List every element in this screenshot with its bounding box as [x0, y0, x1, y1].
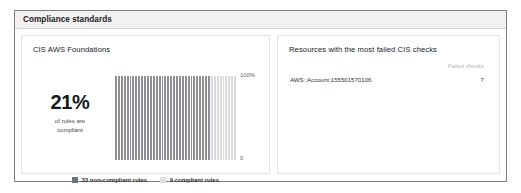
compliance-percent-caption: of rules arecompliant	[28, 117, 112, 135]
panel-title-left: CIS AWS Foundations	[22, 36, 269, 54]
failed-checks-table-header: Failed checks	[278, 54, 499, 69]
column-header-failed-checks: Failed checks	[448, 63, 484, 69]
panel-title-right: Resources with the most failed CIS check…	[278, 36, 499, 54]
legend-item-compliant[interactable]: 9 compliant rules	[160, 177, 219, 183]
cell-resource-name: AWS::Account:155501570106	[290, 76, 481, 83]
widget-body: CIS AWS Foundations 21% of rules arecomp…	[15, 29, 506, 180]
bar-series-container	[114, 76, 236, 160]
axis-label-max: 100%	[240, 72, 255, 78]
compliance-standards-widget: Compliance standards CIS AWS Foundations…	[14, 10, 507, 182]
legend-item-noncompliant[interactable]: 33 non-compliant rules	[72, 177, 147, 183]
legend-swatch-icon	[72, 177, 78, 183]
compliance-percent-value: 21%	[28, 92, 112, 112]
axis-label-min: 0	[240, 155, 243, 161]
widget-header: Compliance standards	[15, 11, 506, 29]
cell-failed-checks-count: 7	[481, 76, 484, 83]
compliance-bar-chart	[114, 76, 236, 160]
compliance-chart-area: 21% of rules arecompliant 100% 0	[22, 54, 269, 172]
bar-compliant	[233, 76, 236, 160]
failed-checks-panel: Resources with the most failed CIS check…	[277, 35, 500, 174]
legend-swatch-icon	[160, 177, 166, 183]
compliance-percent-block: 21% of rules arecompliant	[28, 92, 112, 135]
table-row[interactable]: AWS::Account:155501570106 7	[278, 69, 499, 83]
widget-title: Compliance standards	[23, 15, 112, 24]
legend-label-compliant: 9 compliant rules	[170, 177, 219, 183]
chart-legend: 33 non-compliant rules 9 compliant rules	[22, 177, 269, 183]
legend-label-noncompliant: 33 non-compliant rules	[81, 177, 147, 183]
cis-aws-foundations-panel: CIS AWS Foundations 21% of rules arecomp…	[21, 35, 270, 174]
